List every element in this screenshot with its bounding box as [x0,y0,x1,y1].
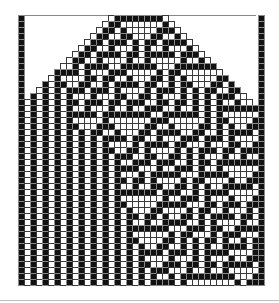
grid-row [18,279,264,285]
cellular-automaton-grid [18,15,264,285]
grid-cell [258,279,265,286]
bottom-divider [0,300,279,301]
